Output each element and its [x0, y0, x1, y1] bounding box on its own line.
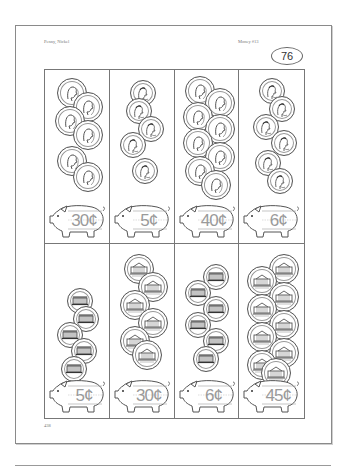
price-label: 40¢ [195, 212, 233, 229]
series-label: Money #13 [238, 39, 259, 44]
price-label: 45¢ [259, 387, 297, 404]
nickel-coin-icon [73, 120, 103, 150]
worksheet-number-badge: 76 [271, 47, 303, 65]
money-cell: 5¢ [45, 244, 110, 418]
page-number: 438 [44, 423, 51, 428]
topic-label: Penny, Nickel [44, 39, 69, 44]
penny-coin-icon [120, 132, 146, 158]
nickel-coin-icon [132, 340, 162, 370]
price-label: 6¢ [195, 387, 233, 404]
money-cell: 6¢ [175, 244, 240, 418]
money-cell: 45¢ [239, 244, 304, 418]
money-cell: 30¢ [45, 70, 110, 244]
nickel-coin-icon [73, 162, 103, 192]
price-label: 5¢ [130, 212, 168, 229]
penny-coin-icon [132, 158, 158, 184]
money-cell: 40¢ [175, 70, 240, 244]
price-label: 5¢ [65, 387, 103, 404]
price-label: 30¢ [130, 387, 168, 404]
coin-grid: 30¢5¢40¢6¢5¢30¢6¢45¢ [44, 69, 305, 419]
money-cell: 5¢ [110, 70, 175, 244]
money-cell: 30¢ [110, 244, 175, 418]
price-label: 30¢ [65, 212, 103, 229]
price-label: 6¢ [259, 212, 297, 229]
page-divider [15, 465, 331, 466]
money-cell: 6¢ [239, 70, 304, 244]
penny-coin-icon [193, 346, 219, 372]
penny-coin-icon [267, 168, 293, 194]
worksheet-page: Penny, Nickel Money #13 76 30¢5¢40¢6¢5¢3… [15, 25, 332, 444]
nickel-coin-icon [201, 170, 231, 200]
